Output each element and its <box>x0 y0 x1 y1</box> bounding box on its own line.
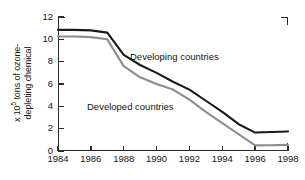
x-tick-1990 <box>156 146 157 152</box>
y-tick-4 <box>58 106 64 107</box>
y-tick-12 <box>58 16 64 17</box>
y-tick-8 <box>58 61 64 62</box>
annotation-developed-countries: Developed countries <box>87 101 174 112</box>
y-tick-label-4: 4 <box>7 101 53 111</box>
x-tick-1998 <box>287 146 288 152</box>
y-tick-label-6: 6 <box>7 79 53 89</box>
x-tick-1994 <box>222 146 223 152</box>
x-tick-label-1994: 1994 <box>205 153 239 164</box>
x-tick-label-1984: 1984 <box>41 153 75 164</box>
x-tick-1986 <box>90 146 91 152</box>
y-tick-label-2: 2 <box>7 123 53 133</box>
x-tick-label-1992: 1992 <box>172 153 206 164</box>
x-tick-label-1998: 1998 <box>271 153 305 164</box>
y-tick-label-8: 8 <box>7 56 53 66</box>
y-tick-label-12: 12 <box>7 12 53 22</box>
ozone-depleting-chemical-line-chart: x 105 tons of ozone- depleting chemical … <box>0 0 305 180</box>
annotation-developing-countries: Developing countries <box>130 51 219 62</box>
x-tick-1984 <box>57 146 58 152</box>
x-tick-1988 <box>123 146 124 152</box>
x-tick-label-1990: 1990 <box>140 153 174 164</box>
plot-area <box>58 17 288 151</box>
x-tick-1992 <box>189 146 190 152</box>
x-tick-label-1996: 1996 <box>238 153 272 164</box>
y-tick-label-10: 10 <box>7 34 53 44</box>
y-tick-10 <box>58 39 64 40</box>
frame-stub-right-top <box>287 17 288 25</box>
x-tick-1996 <box>254 146 255 152</box>
x-tick-label-1986: 1986 <box>74 153 108 164</box>
y-tick-6 <box>58 83 64 84</box>
y-tick-2 <box>58 128 64 129</box>
x-tick-label-1988: 1988 <box>107 153 141 164</box>
y-tick-0 <box>58 150 64 151</box>
